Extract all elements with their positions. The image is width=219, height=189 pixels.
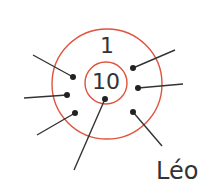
- dart-dot: [135, 85, 141, 91]
- dart-dot: [102, 96, 108, 102]
- leader-line: [24, 95, 67, 98]
- dart-dot-leo: [130, 109, 136, 115]
- target-diagram: 1 10 Léo: [0, 0, 219, 189]
- inner-ring-score: 10: [92, 69, 120, 94]
- dart-dot: [72, 110, 78, 116]
- dart-dot: [64, 92, 70, 98]
- dart-dot: [130, 65, 136, 71]
- leader-line: [133, 50, 175, 68]
- leader-line: [74, 99, 105, 170]
- dart-dot: [70, 74, 76, 80]
- outer-ring-score: 1: [100, 33, 114, 58]
- leader-line-leo: [133, 112, 162, 146]
- player-label-leo: Léo: [156, 157, 198, 185]
- leader-line: [138, 84, 183, 88]
